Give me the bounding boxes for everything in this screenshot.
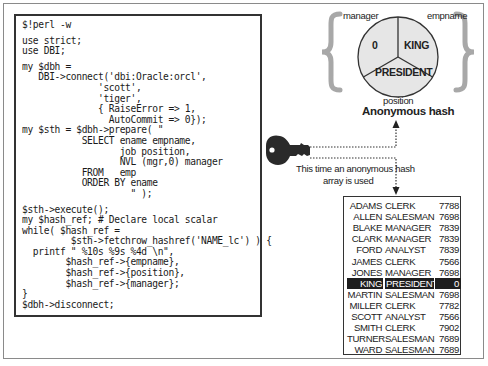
ename-cell: MARTIN — [347, 289, 382, 300]
table-row: ALLENSALESMAN7698 — [347, 211, 457, 222]
ename-cell: SMITH — [347, 322, 382, 333]
job-cell: MANAGER — [385, 267, 433, 278]
mgr-cell: 0 — [435, 278, 461, 289]
empname-key-label: empname — [427, 10, 467, 21]
table-row: MILLERCLERK7782 — [347, 300, 457, 311]
ename-cell: JAMES — [347, 256, 382, 267]
right-brace-icon — [456, 14, 474, 90]
empname-value: KING — [404, 39, 429, 51]
job-cell: SALESMAN — [385, 344, 433, 355]
arrow-to-hash — [310, 120, 400, 147]
mgr-cell: 7839 — [435, 233, 459, 244]
ename-cell: BLAKE — [347, 222, 382, 233]
table-row: JAMESCLERK7566 — [347, 256, 457, 267]
table-row: SCOTTANALYST7566 — [347, 311, 457, 322]
ename-cell: SCOTT — [347, 311, 382, 322]
table-row: SMITHCLERK7902 — [347, 322, 457, 333]
manager-key-label: manager — [343, 10, 378, 21]
job-cell: PRESIDENT — [385, 278, 434, 289]
table-row: BLAKEMANAGER7839 — [347, 222, 457, 233]
job-cell: SALESMAN — [385, 211, 433, 222]
mgr-cell: 7698 — [435, 211, 459, 222]
annotation-line-2: array is used — [323, 175, 373, 186]
mgr-cell: 7902 — [435, 322, 459, 333]
table-row: TURNERSALESMAN7689 — [347, 333, 457, 344]
ename-cell: JONES — [347, 267, 382, 278]
table-row: CLARKMANAGER7839 — [347, 233, 457, 244]
job-cell: ANALYST — [385, 244, 433, 255]
ename-cell: ALLEN — [347, 211, 382, 222]
mgr-cell: 7839 — [435, 244, 459, 255]
manager-value: 0 — [372, 39, 378, 51]
job-cell: ANALYST — [385, 311, 433, 322]
table-row: WARDSALESMAN7689 — [347, 344, 457, 355]
table-row: MARTINSALESMAN7698 — [347, 289, 457, 300]
mgr-cell: 7788 — [435, 200, 459, 211]
ename-cell: FORD — [347, 244, 382, 255]
job-cell: MANAGER — [385, 233, 433, 244]
key-icon — [266, 135, 310, 165]
job-cell: CLERK — [385, 322, 433, 333]
mgr-cell: 7698 — [435, 289, 459, 300]
ename-cell: TURNER — [347, 333, 382, 344]
ename-cell: MILLER — [347, 300, 382, 311]
annotation-line-1: This time an anonymous hash — [296, 163, 415, 174]
ename-cell: KING — [347, 278, 383, 289]
table-row: ADAMSCLERK7788 — [347, 200, 457, 211]
mgr-cell: 7689 — [435, 344, 459, 355]
mgr-cell: 7698 — [435, 267, 459, 278]
table-row: JONESMANAGER7698 — [347, 267, 457, 278]
job-cell: SALESMAN — [385, 333, 433, 344]
mgr-cell: 7782 — [435, 300, 459, 311]
table-row-highlighted: KINGPRESIDENT0 — [347, 278, 457, 289]
mgr-cell: 7566 — [435, 311, 459, 322]
job-cell: SALESMAN — [385, 289, 433, 300]
anonymous-hash-title: Anonymous hash — [362, 105, 454, 117]
job-cell: CLERK — [385, 256, 433, 267]
position-value: PRESIDENT — [375, 66, 432, 78]
mgr-cell: 7689 — [435, 333, 459, 344]
job-cell: MANAGER — [385, 222, 433, 233]
table-row: FORDANALYST7839 — [347, 244, 457, 255]
mgr-cell: 7839 — [435, 222, 459, 233]
ename-cell: CLARK — [347, 233, 382, 244]
mgr-cell: 7566 — [435, 256, 459, 267]
left-brace-icon — [322, 14, 340, 90]
job-cell: CLERK — [385, 200, 433, 211]
ename-cell: WARD — [347, 344, 382, 355]
job-cell: CLERK — [385, 300, 433, 311]
anonymous-hash-circle — [358, 17, 438, 97]
ename-cell: ADAMS — [347, 200, 382, 211]
result-table: ADAMSCLERK7788ALLENSALESMAN7698BLAKEMANA… — [343, 196, 461, 355]
